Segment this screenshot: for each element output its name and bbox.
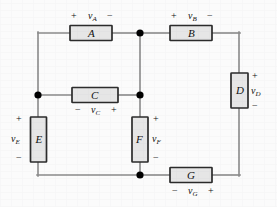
polarity-minus-c: − bbox=[75, 105, 81, 115]
element-label-d: D bbox=[236, 85, 244, 96]
element-label-b: B bbox=[188, 28, 195, 39]
voltage-label-d: vD bbox=[251, 86, 261, 98]
element-label-g: G bbox=[187, 170, 195, 181]
polarity-minus-g: − bbox=[172, 186, 178, 196]
circuit-diagram-canvas: A B C D E F G + vA − + vB − − vC + + vD … bbox=[0, 0, 277, 207]
element-label-f: F bbox=[136, 134, 143, 145]
voltage-label-f: vF bbox=[152, 134, 161, 146]
polarity-plus-c: + bbox=[111, 105, 117, 115]
voltage-label-b: vB bbox=[188, 11, 197, 23]
junction-node-center bbox=[136, 91, 143, 98]
polarity-plus-f: + bbox=[153, 114, 159, 124]
circuit-schematic-svg bbox=[0, 0, 277, 207]
polarity-plus-e: + bbox=[16, 114, 22, 124]
polarity-minus-a: − bbox=[107, 11, 113, 21]
junction-node-left-middle bbox=[34, 91, 41, 98]
junction-node-top-middle bbox=[136, 29, 143, 36]
element-label-e: E bbox=[36, 134, 43, 145]
polarity-plus-b: + bbox=[171, 11, 177, 21]
polarity-minus-f: − bbox=[153, 153, 159, 163]
voltage-label-a: vA bbox=[88, 11, 97, 23]
polarity-plus-a: + bbox=[71, 11, 77, 21]
junction-node-bottom-middle bbox=[136, 171, 143, 178]
voltage-label-c: vC bbox=[91, 105, 100, 117]
voltage-label-e: vE bbox=[11, 134, 20, 146]
polarity-plus-g: + bbox=[208, 186, 214, 196]
element-label-a: A bbox=[88, 28, 95, 39]
polarity-minus-b: − bbox=[207, 11, 213, 21]
voltage-label-g: vG bbox=[188, 186, 198, 198]
polarity-plus-d: + bbox=[252, 71, 258, 81]
element-label-c: C bbox=[91, 90, 98, 101]
polarity-minus-d: − bbox=[252, 101, 258, 111]
polarity-minus-e: − bbox=[16, 153, 22, 163]
